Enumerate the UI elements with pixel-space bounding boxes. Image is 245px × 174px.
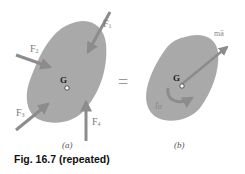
panel-b-label: (b) (174, 140, 185, 150)
figure-caption: Fig. 16.7 (repeated) (14, 153, 110, 165)
center-label-b: G (173, 73, 180, 83)
center-of-mass-a (65, 86, 69, 90)
force-label-f2: F2 (30, 44, 39, 54)
rigid-body-a (27, 21, 107, 123)
force-label-f4: F4 (92, 117, 101, 127)
center-label-a: G (60, 75, 67, 85)
force-label-f1: F1 (103, 19, 112, 29)
center-of-mass-b (180, 84, 184, 88)
equals-sign: = (118, 72, 128, 93)
ma-label: mā (214, 29, 224, 38)
panel-a-label: (a) (62, 140, 73, 150)
i-alpha-label: Īα (155, 102, 162, 111)
force-label-f3: F3 (16, 108, 25, 118)
